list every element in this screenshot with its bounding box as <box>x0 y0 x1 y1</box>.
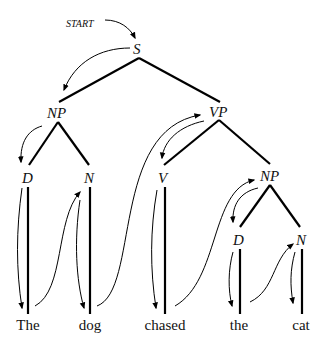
node-vp: VP <box>209 104 227 120</box>
start-label: START <box>66 18 95 29</box>
node-n-object: N <box>295 232 307 248</box>
word-cat: cat <box>292 317 310 333</box>
node-s: S <box>133 41 141 57</box>
word-chased: chased <box>145 317 186 333</box>
word-dog: dog <box>79 317 102 333</box>
tree-edges <box>28 58 302 314</box>
node-n-subject: N <box>83 170 95 186</box>
word-the-2: the <box>230 317 249 333</box>
parse-tree-diagram: START S NP VP D N V NP D N The dog chase… <box>0 0 322 341</box>
node-np-subject: NP <box>46 105 66 121</box>
word-the-1: The <box>16 317 40 333</box>
traversal-arrows <box>18 20 296 308</box>
node-v: V <box>158 170 169 186</box>
node-d-object: D <box>232 232 244 248</box>
node-np-object: NP <box>259 168 279 184</box>
node-d-subject: D <box>21 170 33 186</box>
